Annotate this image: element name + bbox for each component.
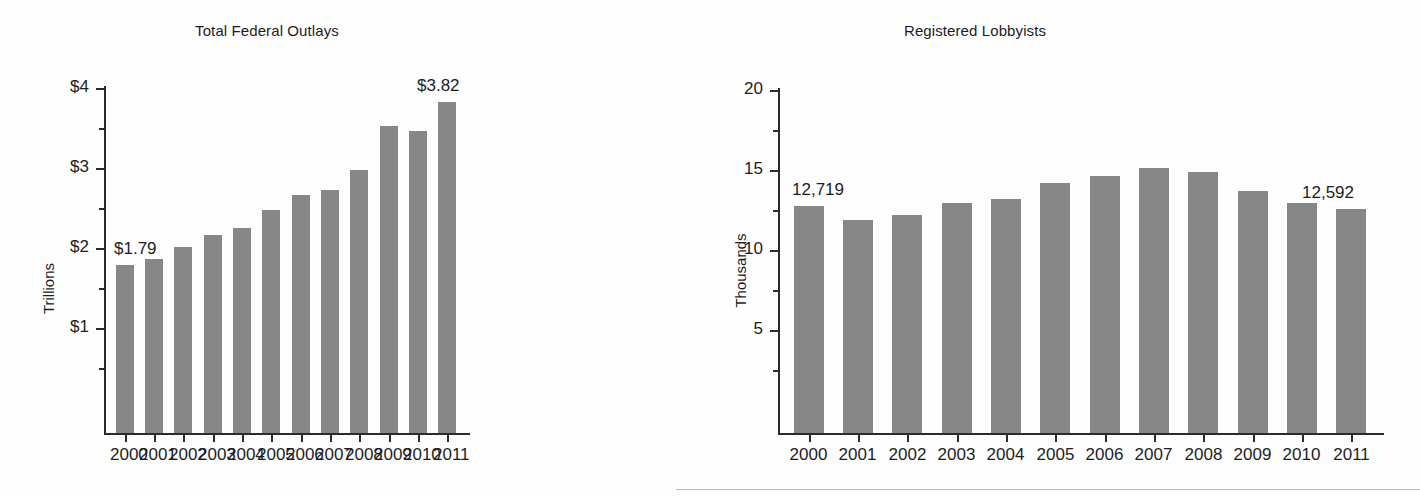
y-tick-major <box>770 330 778 332</box>
bar <box>1336 209 1366 433</box>
bar <box>204 235 222 433</box>
x-tick-label: 2008 <box>1179 445 1228 465</box>
x-tick-label: 2003 <box>932 445 981 465</box>
bar <box>438 102 456 433</box>
y-tick-major <box>96 328 104 330</box>
bar <box>991 199 1021 433</box>
bar <box>116 265 134 433</box>
bar <box>1287 203 1317 433</box>
y-tick-minor <box>773 210 778 212</box>
bar <box>350 170 368 433</box>
bar <box>942 203 972 433</box>
x-tick <box>1154 435 1156 442</box>
x-tick <box>907 435 909 442</box>
bar <box>262 210 280 433</box>
y-tick-minor <box>99 208 104 210</box>
plot-area-right: 5101520200020012002200320042005200620072… <box>710 0 1420 497</box>
bar <box>292 195 310 433</box>
x-tick <box>213 435 215 442</box>
y-tick-minor <box>773 290 778 292</box>
y-tick-label: $3 <box>34 157 89 177</box>
x-tick-label: 2011 <box>1327 445 1376 465</box>
x-tick <box>1055 435 1057 442</box>
x-tick-label: 2001 <box>139 445 168 465</box>
x-tick <box>125 435 127 442</box>
x-tick <box>389 435 391 442</box>
bar <box>233 228 251 433</box>
x-tick-label: 2007 <box>315 445 344 465</box>
y-tick-major <box>96 88 104 90</box>
x-tick <box>858 435 860 442</box>
x-tick <box>183 435 185 442</box>
x-axis-line <box>104 433 470 435</box>
bar <box>380 126 398 433</box>
x-tick <box>447 435 449 442</box>
y-tick-label: 20 <box>708 79 763 99</box>
y-tick-major <box>770 170 778 172</box>
bar <box>1090 176 1120 433</box>
bar-value-label: 12,592 <box>1302 183 1354 203</box>
x-tick <box>809 435 811 442</box>
bar-value-label: $3.82 <box>417 76 460 96</box>
bar <box>843 220 873 433</box>
x-tick <box>1006 435 1008 442</box>
bar <box>321 190 339 433</box>
bar <box>1040 183 1070 433</box>
y-tick-minor <box>773 370 778 372</box>
x-tick-label: 2000 <box>110 445 139 465</box>
x-tick-label: 2008 <box>345 445 374 465</box>
x-tick-label: 2004 <box>227 445 256 465</box>
y-tick-major <box>96 168 104 170</box>
x-tick <box>154 435 156 442</box>
bar <box>892 215 922 433</box>
figure-canvas: Total Federal Outlays $1$2$3$42000200120… <box>0 0 1420 497</box>
x-tick <box>1105 435 1107 442</box>
x-tick-label: 2001 <box>833 445 882 465</box>
bar <box>1139 168 1169 433</box>
x-tick <box>301 435 303 442</box>
y-tick-major <box>770 90 778 92</box>
x-tick-label: 2002 <box>883 445 932 465</box>
chart-panel-total-federal-outlays: Total Federal Outlays $1$2$3$42000200120… <box>0 0 710 497</box>
x-tick-label: 2004 <box>981 445 1030 465</box>
x-tick <box>957 435 959 442</box>
bar <box>1188 172 1218 433</box>
bar <box>1238 191 1268 433</box>
x-tick-label: 2005 <box>257 445 286 465</box>
x-tick-label: 2010 <box>403 445 432 465</box>
x-tick-label: 2009 <box>1228 445 1277 465</box>
x-tick-label: 2007 <box>1129 445 1178 465</box>
x-tick-label: 2000 <box>784 445 833 465</box>
bar <box>145 259 163 433</box>
chart-panel-registered-lobbyists: Registered Lobbyists 5101520200020012002… <box>710 0 1420 497</box>
x-tick <box>1351 435 1353 442</box>
y-axis-line <box>104 86 106 435</box>
x-tick <box>418 435 420 442</box>
y-axis-title-left: Trillions <box>40 219 57 359</box>
x-tick-label: 2011 <box>433 445 462 465</box>
bar <box>174 247 192 433</box>
x-tick-label: 2005 <box>1031 445 1080 465</box>
y-tick-label: $4 <box>34 77 89 97</box>
x-tick-label: 2006 <box>286 445 315 465</box>
bar-value-label: 12,719 <box>792 180 844 200</box>
y-tick-minor <box>99 368 104 370</box>
y-tick-minor <box>99 128 104 130</box>
x-tick <box>1253 435 1255 442</box>
x-axis-line <box>778 433 1384 435</box>
plot-area-left: $1$2$3$420002001200220032004200520062007… <box>0 0 710 497</box>
bar <box>409 131 427 433</box>
y-tick-major <box>96 248 104 250</box>
x-tick-label: 2009 <box>374 445 403 465</box>
x-tick-label: 2003 <box>198 445 227 465</box>
x-tick <box>330 435 332 442</box>
x-tick-label: 2006 <box>1080 445 1129 465</box>
y-tick-minor <box>99 288 104 290</box>
y-tick-minor <box>773 130 778 132</box>
y-axis-title-right: Thousands <box>732 191 749 351</box>
x-tick <box>359 435 361 442</box>
page-bottom-rule <box>676 489 1420 490</box>
x-tick <box>242 435 244 442</box>
y-tick-label: 15 <box>708 159 763 179</box>
x-tick <box>1302 435 1304 442</box>
